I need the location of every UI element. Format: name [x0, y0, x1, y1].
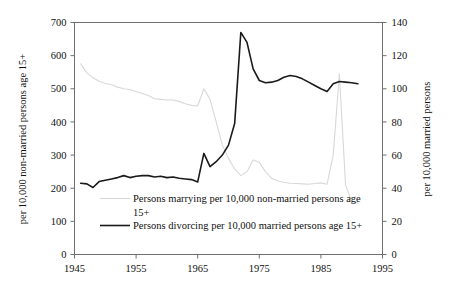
- y-axis-left-tick-label: 300: [51, 150, 67, 161]
- y-axis-right-tick-label: 80: [392, 117, 403, 128]
- chart-container: per 10,000 non-married persons age 15+ p…: [0, 0, 450, 290]
- y-axis-right-tick-label: 0: [392, 249, 397, 260]
- x-axis-tick-label: 1975: [249, 263, 270, 274]
- y-axis-left-tick-label: 100: [51, 216, 67, 227]
- y-axis-right-tick-label: 20: [392, 216, 403, 227]
- y-axis-left-tick-label: 700: [51, 17, 67, 28]
- x-axis-tick-label: 1945: [64, 263, 85, 274]
- legend-label-1: Persons divorcing per 10,000 married per…: [133, 220, 362, 231]
- y-axis-left-tick-label: 400: [51, 117, 67, 128]
- y-axis-left-tick-label: 500: [51, 83, 67, 94]
- legend-label-0-line2: 15+: [133, 207, 150, 218]
- y-axis-left-tick-label: 200: [51, 183, 67, 194]
- x-axis-tick-label: 1995: [372, 263, 393, 274]
- y-axis-right-tick-label: 140: [392, 17, 408, 28]
- line-chart: per 10,000 non-married persons age 15+ p…: [0, 0, 450, 290]
- y-axis-right-tick-label: 60: [392, 150, 403, 161]
- y-axis-right-tick-label: 100: [392, 83, 408, 94]
- y-axis-left-tick-label: 600: [51, 50, 67, 61]
- right-axis-title-text: per 10,000 married persons: [421, 82, 432, 197]
- left-axis-title-text: per 10,000 non-married persons age 15+: [17, 54, 28, 224]
- left-axis-title: per 10,000 non-married persons age 15+: [17, 54, 28, 224]
- x-axis-tick-label: 1985: [310, 263, 331, 274]
- right-axis-title: per 10,000 married persons: [421, 82, 432, 197]
- x-axis-tick-label: 1955: [126, 263, 147, 274]
- legend-label-0: Persons marrying per 10,000 non-married …: [133, 193, 361, 204]
- x-axis-tick-label: 1965: [187, 263, 208, 274]
- y-axis-right-tick-label: 40: [392, 183, 403, 194]
- y-axis-left-tick-label: 0: [61, 249, 66, 260]
- y-axis-right-tick-label: 120: [392, 50, 408, 61]
